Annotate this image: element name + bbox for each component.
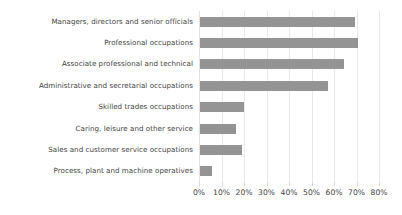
axis-tick-mark <box>379 182 380 186</box>
bar-chart: Managers, directors and senior officials… <box>0 0 402 215</box>
axis-tick-mark <box>244 182 245 186</box>
axis-tick-mark <box>222 182 223 186</box>
bar <box>200 17 355 27</box>
gridline <box>357 11 358 182</box>
gridline <box>267 11 268 182</box>
bar <box>200 102 244 112</box>
category-label: Managers, directors and senior officials <box>0 18 193 26</box>
category-label: Skilled trades occupations <box>0 103 193 111</box>
axis-tick-mark <box>289 182 290 186</box>
category-label: Administrative and secretarial occupatio… <box>0 82 193 90</box>
bar <box>200 124 236 134</box>
bar <box>200 166 212 176</box>
axis-tick-mark <box>357 182 358 186</box>
category-label: Caring, leisure and other service <box>0 125 193 133</box>
axis-tick-label: 80% <box>366 188 392 197</box>
axis-tick-mark <box>312 182 313 186</box>
axis-tick-mark <box>267 182 268 186</box>
bar <box>200 145 242 155</box>
bar <box>200 59 344 69</box>
axis-tick-mark <box>334 182 335 186</box>
category-label: Sales and customer service occupations <box>0 146 193 154</box>
gridline <box>312 11 313 182</box>
gridline <box>222 11 223 182</box>
category-label: Professional occupations <box>0 39 193 47</box>
category-axis-labels: Managers, directors and senior officials… <box>0 11 193 182</box>
plot-area <box>199 11 379 182</box>
gridline <box>289 11 290 182</box>
value-axis: 0%10%20%30%40%50%60%70%80% <box>199 182 379 208</box>
gridline <box>199 11 200 182</box>
gridline <box>334 11 335 182</box>
category-label: Associate professional and technical <box>0 60 193 68</box>
gridline <box>379 11 380 182</box>
axis-tick-mark <box>199 182 200 186</box>
gridline <box>244 11 245 182</box>
category-label: Process, plant and machine operatives <box>0 167 193 175</box>
bar <box>200 81 328 91</box>
bar <box>200 38 358 48</box>
